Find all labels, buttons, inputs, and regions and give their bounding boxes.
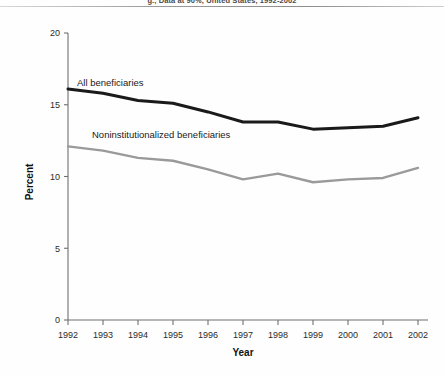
- chart-figure: g., Data at 90%, United States, 1992-200…: [0, 0, 444, 375]
- x-tick-label-1998: 1998: [268, 330, 288, 340]
- x-tick-label-1993: 1993: [93, 330, 113, 340]
- line-chart-svg: 05101520 1992199319941995199619971998199…: [0, 0, 444, 375]
- y-axis-title: Percent: [24, 163, 35, 200]
- x-tick-label-1997: 1997: [233, 330, 253, 340]
- axis-titles: YearPercent: [24, 163, 254, 358]
- series-annotations: All beneficiariesNoninstitutionalized be…: [77, 77, 231, 140]
- x-tick-label-1995: 1995: [163, 330, 183, 340]
- all-beneficiaries-label: All beneficiaries: [77, 77, 144, 88]
- y-tick-label-10: 10: [50, 172, 60, 182]
- x-tick-label-1996: 1996: [198, 330, 218, 340]
- x-tick-label-2002: 2002: [408, 330, 428, 340]
- x-axis-title: Year: [232, 347, 253, 358]
- x-tick-label-1994: 1994: [128, 330, 148, 340]
- x-tick-label-2001: 2001: [373, 330, 393, 340]
- y-axis: 05101520: [50, 28, 68, 325]
- series-line-all-beneficiaries: [68, 89, 418, 129]
- x-tick-label-2000: 2000: [338, 330, 358, 340]
- x-axis: 1992199319941995199619971998199920002001…: [58, 320, 428, 340]
- y-tick-label-20: 20: [50, 28, 60, 38]
- x-tick-label-1999: 1999: [303, 330, 323, 340]
- y-tick-label-0: 0: [55, 315, 60, 325]
- noninstitutionalized-label: Noninstitutionalized beneficiaries: [92, 129, 231, 140]
- y-tick-label-15: 15: [50, 100, 60, 110]
- y-tick-label-5: 5: [55, 244, 60, 254]
- series-line-noninstitutionalized: [68, 146, 418, 182]
- x-tick-label-1992: 1992: [58, 330, 78, 340]
